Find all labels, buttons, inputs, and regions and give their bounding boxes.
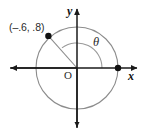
- unit-circle-figure: (–.6, .8) y x O θ: [0, 0, 145, 136]
- x-axis-label: x: [128, 70, 134, 82]
- initial-point-marker: [115, 65, 121, 71]
- angle-theta-label: θ: [93, 36, 99, 49]
- origin-label: O: [64, 70, 72, 81]
- point-coordinate-label: (–.6, .8): [9, 22, 44, 33]
- terminal-point-marker: [45, 33, 51, 39]
- terminal-ray: [48, 36, 77, 68]
- y-axis-label: y: [67, 5, 72, 17]
